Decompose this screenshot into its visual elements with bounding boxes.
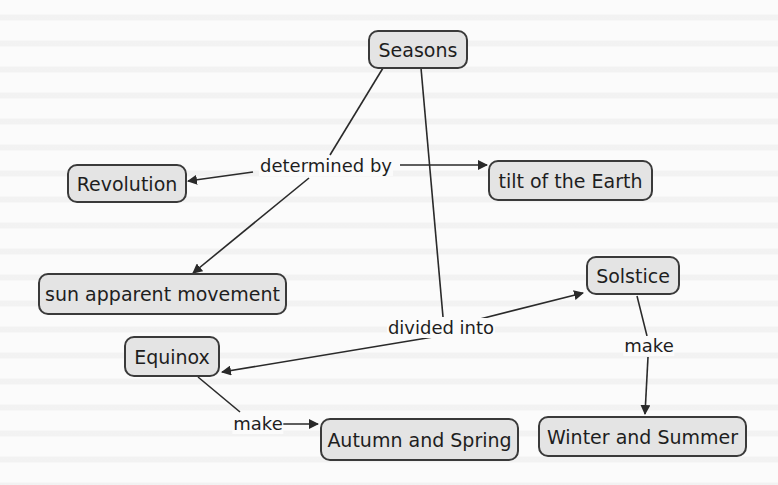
link-label-determined-by: determined by	[259, 156, 393, 176]
line-seasons-to-divided-into	[421, 68, 443, 317]
link-label-divided-into: divided into	[387, 318, 495, 338]
node-sun-apparent-movement[interactable]: sun apparent movement	[38, 273, 287, 315]
line-seasons-to-determined-by	[330, 68, 383, 155]
node-revolution[interactable]: Revolution	[67, 164, 187, 203]
arrow-to-sun-apparent-movement	[193, 178, 309, 273]
link-label-make-equinox: make	[232, 414, 283, 434]
line-solstice-to-make	[637, 296, 647, 336]
arrow-to-revolution	[188, 172, 253, 181]
node-autumn-and-spring[interactable]: Autumn and Spring	[320, 418, 519, 461]
arrow-to-equinox	[222, 337, 433, 372]
arrow-to-winter-and-summer	[645, 357, 648, 414]
line-equinox-to-make	[198, 377, 240, 412]
connection-lines	[0, 0, 778, 485]
arrow-to-solstice	[480, 293, 583, 319]
node-equinox[interactable]: Equinox	[124, 336, 220, 377]
node-winter-and-summer[interactable]: Winter and Summer	[538, 416, 747, 457]
link-label-make-solstice: make	[623, 336, 674, 356]
node-seasons[interactable]: Seasons	[368, 30, 468, 69]
node-tilt-of-the-earth[interactable]: tilt of the Earth	[488, 160, 653, 201]
node-solstice[interactable]: Solstice	[586, 256, 680, 295]
